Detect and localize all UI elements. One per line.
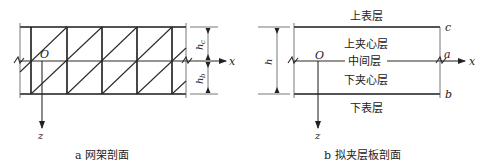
layer-upper-core: 上夹心层 [344, 38, 388, 51]
panel-a-truss-section: x z O h c h b a 网架剖面 [14, 23, 236, 162]
dim-label-h: h [263, 59, 274, 65]
dim-label-hc: h c [194, 40, 207, 50]
z-axis-label-b: z [314, 130, 321, 141]
layer-lower-core: 下夹心层 [344, 74, 388, 87]
point-label-c: c [445, 21, 451, 34]
point-label-b: b [445, 88, 452, 101]
break-mark-right [182, 57, 192, 63]
svg-text:h: h [263, 59, 274, 65]
point-label-a: a [444, 48, 451, 61]
caption-b: b 拟夹层板剖面 [324, 148, 401, 162]
origin-label-b: O [315, 49, 324, 62]
break-mark-left-b [288, 57, 298, 63]
diagram-canvas: x z O h c h b a 网架剖面 [0, 0, 481, 164]
x-axis-label-b: x [469, 55, 476, 68]
z-axis-label: z [37, 130, 44, 141]
panel-b-sandwich-section: 上表层 上夹心层 中间层 下夹心层 下表层 c a b x z O h b 拟夹… [258, 9, 476, 162]
break-mark-left [14, 57, 24, 63]
caption-a: a 网架剖面 [75, 148, 129, 162]
layer-middle: 中间层 [348, 55, 381, 68]
origin-label: O [40, 48, 49, 61]
svg-text:b: b [199, 73, 207, 78]
layer-bottom-surface: 下表层 [350, 101, 383, 115]
x-axis-label: x [229, 55, 236, 68]
svg-text:c: c [199, 40, 207, 44]
dim-label-hb: h b [194, 73, 207, 84]
layer-top-surface: 上表层 [350, 9, 383, 23]
